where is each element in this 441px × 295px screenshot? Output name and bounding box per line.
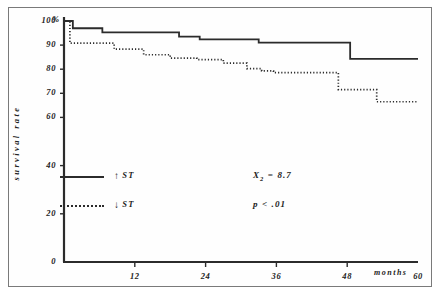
p-value-statistic: p < .01 xyxy=(253,199,286,209)
y-tick-label: 70 xyxy=(18,87,56,97)
x-tick-label: 12 xyxy=(115,271,155,281)
arrow-down-icon: ↓ xyxy=(114,200,120,210)
chi-square-value: = 8.7 xyxy=(268,170,292,180)
legend-label: ↓ST xyxy=(114,199,135,210)
y-tick-label: 100 xyxy=(18,15,56,25)
survival-curve-st-up xyxy=(64,21,418,59)
y-tick-label: 90 xyxy=(18,39,56,49)
y-tick-label: 0 xyxy=(18,256,56,266)
legend-label: ↑ST xyxy=(114,170,135,181)
y-tick-label: 60 xyxy=(18,111,56,121)
axis-lines xyxy=(63,17,418,262)
x-tick-label: 48 xyxy=(327,271,367,281)
axis-ticks xyxy=(60,45,347,267)
chi-square-subscript: 2 xyxy=(260,175,264,182)
survival-curve-svg xyxy=(0,0,441,295)
y-tick-label: 20 xyxy=(18,208,56,218)
legend-line-swatch xyxy=(60,176,104,181)
legend-item-st-down: ↓ST xyxy=(60,199,180,213)
legend-label-text: ST xyxy=(122,170,134,180)
y-axis-title: survival rate xyxy=(11,83,21,203)
x-tick-label: 24 xyxy=(186,271,226,281)
legend-line-swatch xyxy=(60,205,104,210)
legend-label-text: ST xyxy=(122,199,134,209)
curve-paths xyxy=(64,21,418,102)
legend-item-st-up: ↑ST xyxy=(60,170,180,184)
y-tick-label: 80 xyxy=(18,63,56,73)
y-tick-label: 40 xyxy=(18,160,56,170)
x-tick-label: 36 xyxy=(256,271,296,281)
arrow-up-icon: ↑ xyxy=(114,171,120,181)
chi-square-statistic: X2 = 8.7 xyxy=(253,170,292,182)
survival-plot: % survival rate months 1009080706040200 … xyxy=(0,0,441,295)
x-tick-label: 60 xyxy=(398,271,438,281)
